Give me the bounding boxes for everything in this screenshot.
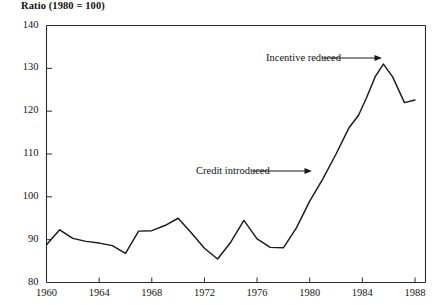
- annotation-label-credit-introduced: Credit introduced: [196, 165, 270, 176]
- annotation-arrow-head-incentive-reduced: [375, 55, 383, 61]
- y-axis-tick-label: 100: [13, 190, 39, 201]
- chart-plot-area: [0, 0, 437, 305]
- x-axis-tick-label: 1976: [237, 287, 277, 298]
- annotation-label-incentive-reduced: Incentive reduced: [266, 52, 341, 63]
- x-axis-tick-label: 1984: [342, 287, 382, 298]
- y-axis-tick-label: 120: [13, 104, 39, 115]
- chart-container: Ratio (1980 = 100) 8090100110120130140 1…: [0, 0, 437, 305]
- x-axis-tick-label: 1988: [395, 287, 435, 298]
- y-axis-tick-label: 110: [13, 147, 39, 158]
- y-axis-tick-label: 140: [13, 19, 39, 30]
- data-series-line: [47, 64, 416, 259]
- annotation-arrow-head-credit-introduced: [305, 168, 313, 174]
- x-axis-tick-label: 1972: [184, 287, 224, 298]
- x-axis-tick-label: 1968: [132, 287, 172, 298]
- y-axis-tick-label: 80: [13, 276, 39, 287]
- x-axis-tick-label: 1960: [27, 287, 67, 298]
- y-axis-tick-label: 90: [13, 233, 39, 244]
- y-axis-tick-label: 130: [13, 61, 39, 72]
- chart-annotation-arrows: [252, 55, 382, 174]
- x-axis-tick-label: 1980: [290, 287, 330, 298]
- x-axis-tick-label: 1964: [79, 287, 119, 298]
